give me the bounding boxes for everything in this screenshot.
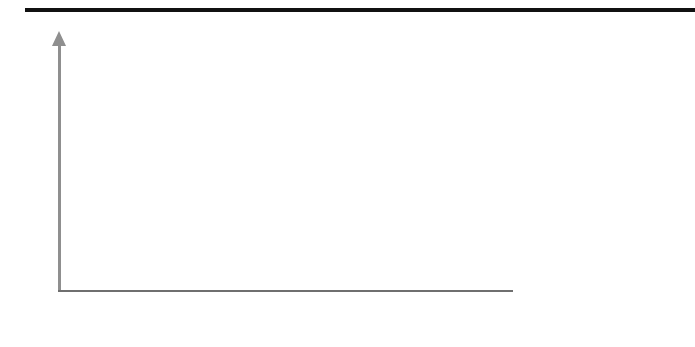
x-axis-line: [58, 290, 513, 292]
bars-layer: [60, 34, 510, 290]
infographic-root: [0, 0, 695, 347]
top-rule-divider: [25, 8, 695, 12]
plot-region: [60, 34, 510, 290]
chart-area: [0, 20, 515, 347]
